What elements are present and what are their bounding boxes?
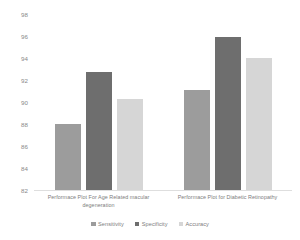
legend-item-sensitivity[interactable]: Sensitivity xyxy=(91,221,124,227)
bar-chart: 989694929088868482 Performace Plot For A… xyxy=(0,0,300,240)
legend-swatch-icon xyxy=(91,222,96,227)
bar-specificity xyxy=(215,37,241,190)
bar-group xyxy=(163,14,292,190)
category-label: Performace Plot For Age Related macular … xyxy=(38,193,159,209)
y-axis-tick-label: 92 xyxy=(21,77,28,84)
y-axis-tick-label: 82 xyxy=(21,187,28,194)
legend-label: Sensitivity xyxy=(98,221,124,227)
bar-group xyxy=(34,14,163,190)
legend-item-accuracy[interactable]: Accuracy xyxy=(179,221,209,227)
bar-accuracy xyxy=(117,99,143,190)
bar-sensitivity xyxy=(55,124,81,190)
y-axis-tick-label: 98 xyxy=(21,11,28,18)
y-axis-tick-label: 86 xyxy=(21,143,28,150)
x-axis-baseline xyxy=(34,190,292,191)
y-axis: 989694929088868482 xyxy=(0,14,30,190)
bar-accuracy xyxy=(246,58,272,190)
category-axis-labels: Performace Plot For Age Related macular … xyxy=(34,193,292,219)
legend-swatch-icon xyxy=(135,222,140,227)
legend-swatch-icon xyxy=(179,222,184,227)
bar-specificity xyxy=(86,72,112,190)
y-axis-tick-label: 94 xyxy=(21,55,28,62)
y-axis-tick-label: 96 xyxy=(21,33,28,40)
y-axis-tick-label: 84 xyxy=(21,165,28,172)
plot-area xyxy=(34,14,292,190)
y-axis-tick-label: 88 xyxy=(21,121,28,128)
category-label: Performace Plot for Diabetic Retinopathy xyxy=(167,193,288,201)
legend-label: Specificity xyxy=(142,221,168,227)
chart-legend: SensitivitySpecificityAccuracy xyxy=(0,221,300,227)
y-axis-tick-label: 90 xyxy=(21,99,28,106)
legend-item-specificity[interactable]: Specificity xyxy=(135,221,168,227)
bar-sensitivity xyxy=(184,90,210,190)
legend-label: Accuracy xyxy=(186,221,209,227)
